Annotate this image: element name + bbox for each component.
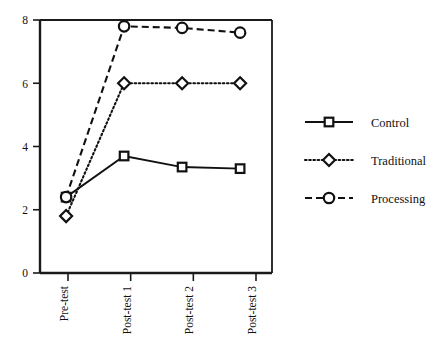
legend-marker-square — [325, 118, 334, 127]
legend-entry-traditional[interactable]: Traditional — [305, 154, 427, 168]
legend-label-processing: Processing — [371, 192, 426, 206]
series-traditional — [60, 77, 246, 222]
series-line-control — [66, 156, 240, 197]
y-axis-tick-labels: 0 2 4 6 8 — [22, 14, 28, 279]
legend-marker-circle — [324, 193, 334, 203]
datapoint-control-2 — [178, 163, 187, 172]
series-processing — [61, 21, 245, 202]
line-chart: 0 2 4 6 8 Pre-test Post-test 1 Post-test… — [0, 0, 437, 353]
x-axis-ticks — [68, 273, 256, 281]
x-tick-label-post-test-1: Post-test 1 — [121, 286, 133, 334]
x-tick-label-post-test-2: Post-test 2 — [183, 286, 195, 334]
datapoint-traditional-1 — [118, 77, 130, 89]
datapoint-processing-2 — [177, 23, 187, 33]
series-line-processing — [66, 26, 240, 197]
datapoint-control-1 — [120, 152, 129, 161]
datapoint-traditional-3 — [234, 77, 246, 89]
datapoint-traditional-2 — [176, 77, 188, 89]
datapoint-control-3 — [236, 164, 245, 173]
x-tick-label-post-test-3: Post-test 3 — [246, 286, 258, 334]
legend-marker-diamond — [323, 154, 335, 166]
series-line-traditional — [66, 83, 240, 216]
y-tick-label-6: 6 — [22, 78, 28, 90]
legend-label-traditional: Traditional — [371, 154, 427, 168]
legend-entry-processing[interactable]: Processing — [305, 192, 426, 206]
x-axis-tick-labels: Pre-test Post-test 1 Post-test 2 Post-te… — [58, 285, 258, 334]
legend-entry-control[interactable]: Control — [305, 116, 410, 130]
datapoint-processing-3 — [235, 27, 245, 37]
chart-figure: 0 2 4 6 8 Pre-test Post-test 1 Post-test… — [0, 0, 437, 353]
series-control — [62, 152, 245, 202]
datapoint-traditional-0 — [60, 210, 72, 222]
x-tick-label-pre-test: Pre-test — [58, 285, 70, 321]
y-tick-label-2: 2 — [22, 204, 28, 216]
plot-frame — [40, 20, 272, 273]
datapoint-processing-0 — [61, 192, 71, 202]
chart-legend: ControlTraditionalProcessing — [305, 116, 427, 206]
data-series-layer — [60, 21, 246, 222]
y-tick-label-4: 4 — [22, 141, 28, 153]
y-tick-label-8: 8 — [22, 14, 28, 26]
legend-label-control: Control — [371, 116, 410, 130]
datapoint-processing-1 — [119, 21, 129, 31]
y-tick-label-0: 0 — [22, 267, 28, 279]
